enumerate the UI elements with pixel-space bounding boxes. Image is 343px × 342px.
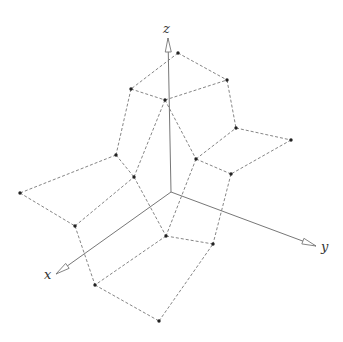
point-M	[164, 234, 167, 237]
edge-E-F	[236, 128, 291, 140]
edge-H-G	[196, 159, 231, 174]
edge-C-D	[131, 89, 165, 100]
wireframe-plot	[0, 0, 343, 342]
axis-x	[56, 192, 171, 274]
axis-y-arrow-icon	[302, 238, 316, 246]
point-N	[211, 242, 214, 245]
axis-x-arrow-icon	[56, 263, 69, 274]
point-K	[18, 191, 21, 194]
point-C	[129, 87, 132, 90]
edge-L-O	[75, 226, 95, 285]
point-B	[225, 78, 228, 81]
point-J	[132, 175, 135, 178]
edge-M-O	[95, 236, 166, 285]
edge-A-C	[131, 53, 178, 89]
edge-M-N	[166, 236, 213, 244]
edge-D-B	[165, 80, 227, 100]
point-A	[176, 51, 179, 54]
axis-label-y: y	[321, 240, 328, 253]
edge-A-B	[178, 53, 227, 80]
edge-L-J	[75, 177, 134, 226]
point-H	[229, 172, 232, 175]
point-G	[194, 157, 197, 160]
point-L	[73, 224, 76, 227]
point-E	[234, 126, 237, 129]
edge-O-P	[95, 285, 159, 321]
edge-K-L	[20, 193, 75, 226]
axis-y	[171, 192, 316, 246]
axis-z-arrow-icon	[165, 38, 171, 52]
diagram-canvas: x y z	[0, 0, 343, 342]
edge-B-E	[227, 80, 236, 128]
edge-I-K	[20, 155, 116, 193]
edge-G-E	[196, 128, 236, 159]
axis-z	[168, 38, 171, 192]
edge-D-J	[134, 100, 165, 177]
edge-F-H	[231, 140, 291, 174]
axis-label-x: x	[44, 268, 51, 281]
point-F	[289, 138, 292, 141]
point-P	[157, 319, 160, 322]
point-I	[114, 153, 117, 156]
axis-label-z: z	[163, 22, 170, 35]
point-O	[93, 283, 96, 286]
edge-C-I	[116, 89, 131, 155]
edge-I-J	[116, 155, 134, 177]
point-D	[163, 98, 166, 101]
edge-P-N	[159, 244, 213, 321]
